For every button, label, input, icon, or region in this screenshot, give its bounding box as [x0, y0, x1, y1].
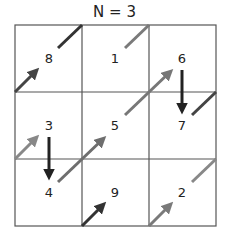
cell-number: 5 — [111, 118, 119, 133]
move-arrow — [125, 72, 170, 115]
cell-number: 6 — [178, 51, 186, 66]
cell-number: 2 — [178, 185, 186, 200]
cell-number: 1 — [111, 51, 119, 66]
move-wrap-segment — [192, 159, 216, 182]
cell-number: 8 — [45, 51, 53, 66]
magic-square-diagram: 816357492 — [0, 0, 229, 236]
move-arrow — [58, 139, 103, 182]
cell-numbers: 816357492 — [45, 51, 186, 200]
move-wrap-segment — [58, 25, 82, 48]
move-arrow — [15, 71, 36, 92]
move-arrow — [149, 205, 170, 226]
move-wrap-segment — [192, 92, 216, 115]
move-arrow — [15, 138, 36, 159]
move-arrow — [82, 205, 103, 226]
cell-number: 7 — [178, 118, 186, 133]
cell-number: 9 — [111, 185, 119, 200]
move-wrap-segment — [125, 25, 149, 48]
cell-number: 3 — [45, 118, 53, 133]
cell-number: 4 — [45, 185, 53, 200]
